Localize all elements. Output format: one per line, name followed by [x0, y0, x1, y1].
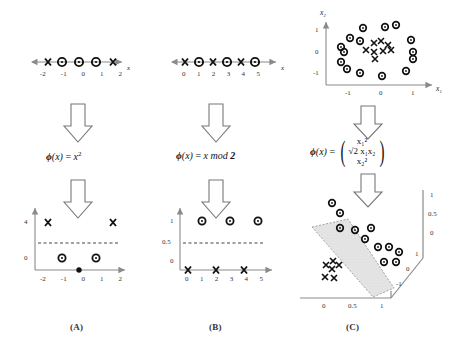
panelA-output-markers — [45, 219, 116, 273]
panelA-formula: ϕ(x) = x2 — [46, 150, 82, 162]
marker-O — [92, 254, 99, 261]
panelC-formula: ϕ(x) = ( x₁² √2 x₁x₂ x₂² ) — [310, 136, 387, 166]
panelC-output-vtick-half: 0.5 — [428, 210, 437, 218]
panelC-input-yaxis-label: x₂ — [320, 8, 326, 17]
marker-X — [331, 275, 337, 281]
tick: 0 — [82, 275, 86, 283]
panelC-input-ytick-0: 0 — [315, 48, 319, 56]
marker-O — [76, 267, 81, 272]
panel-caption-c: (C) — [346, 322, 359, 332]
panelC-input-xtick-neg1: -1 — [345, 89, 351, 97]
tick: 5 — [259, 275, 263, 283]
panelC-input-ytick-neg1: -1 — [313, 69, 319, 77]
vector-row: √2 x₁x₂ — [349, 146, 376, 156]
panelC-output-vtick-1: 1 — [430, 191, 434, 199]
marker-X — [378, 38, 384, 44]
marker-O — [344, 66, 351, 73]
tick: 1 — [100, 70, 104, 78]
down-block-arrow-icon — [202, 104, 230, 142]
panelC-formula-vector: ( x₁² √2 x₁x₂ x₂² ) — [338, 136, 387, 166]
down-block-arrow-icon — [202, 180, 230, 218]
panelB-output-xticks: 0 1 2 3 4 5 — [185, 275, 263, 283]
marker-O — [379, 73, 386, 80]
right-paren-icon: ) — [379, 139, 384, 163]
panelA-input-axis-label: x — [127, 64, 130, 72]
figure-canvas — [0, 0, 459, 350]
marker-O — [198, 217, 205, 224]
marker-X — [363, 47, 369, 53]
marker-O — [396, 249, 403, 256]
tick: 0 — [82, 70, 86, 78]
panelA-output-xticks: -2 -1 0 1 2 — [40, 275, 122, 283]
panelB-output-ytick-0: 0 — [170, 257, 174, 265]
marker-O — [386, 244, 393, 251]
tick: 0 — [185, 275, 189, 283]
panelA-output-ytick-0: 0 — [24, 254, 28, 262]
panelB-input-ticks: 0 1 2 3 4 5 — [182, 70, 260, 78]
panelC-output-dtick-0: 0 — [406, 265, 410, 273]
panel-caption-a: (A) — [70, 322, 83, 332]
panelA-input-plot — [32, 58, 122, 66]
tick: 4 — [245, 275, 249, 283]
tick: -2 — [40, 275, 46, 283]
panelC-input-plot — [326, 22, 432, 85]
tick: 3 — [230, 275, 234, 283]
down-block-arrow-icon — [354, 106, 382, 139]
tick: -1 — [61, 275, 67, 283]
down-block-arrow-icon — [64, 104, 92, 142]
marker-O — [393, 22, 400, 29]
tick: -2 — [40, 70, 46, 78]
marker-X — [329, 266, 335, 272]
marker-O — [360, 25, 367, 32]
marker-O — [381, 259, 388, 266]
tick: 2 — [119, 70, 123, 78]
marker-O — [226, 217, 233, 224]
marker-O — [382, 24, 389, 31]
marker-O — [337, 210, 344, 217]
panelC-output-xtick-half: 0.5 — [348, 302, 357, 310]
marker-O — [410, 49, 417, 56]
down-block-arrow-icon — [354, 174, 382, 207]
marker-O — [357, 38, 364, 45]
vector-row: x₁² — [357, 136, 367, 146]
tick: -1 — [61, 70, 67, 78]
tick: 1 — [197, 70, 201, 78]
tick: 4 — [242, 70, 246, 78]
panelB-output-ytick-1: 1 — [170, 217, 174, 225]
marker-X — [322, 274, 328, 280]
panelB-output-plot — [180, 208, 272, 274]
marker-O — [410, 56, 417, 63]
left-paren-icon: ( — [340, 139, 345, 163]
panelC-output-xtick-0: 0 — [322, 302, 326, 310]
tick: 0 — [182, 70, 186, 78]
tick: 1 — [100, 275, 104, 283]
panelC-input-circles — [338, 22, 417, 80]
marker-O — [375, 244, 382, 251]
marker-O — [368, 225, 375, 232]
tick: 5 — [256, 70, 260, 78]
marker-X — [323, 262, 329, 268]
panelC-output-dtick-neg1: -1 — [396, 280, 402, 288]
panelB-input-axis-label: x — [281, 64, 284, 72]
panelC-output-plot — [300, 190, 423, 298]
panelB-output-ytick-half: 0.5 — [162, 238, 171, 246]
panel-caption-b: (B) — [209, 322, 222, 332]
panelC-output-crosses — [322, 258, 342, 281]
panelC-input-xtick-0: 0 — [379, 89, 383, 97]
down-block-arrow-icon — [64, 180, 92, 218]
panelC-input-ytick-1: 1 — [315, 26, 319, 34]
panelA-output-plot — [35, 208, 125, 273]
panelA-output-ytick-4: 4 — [24, 218, 28, 226]
tick: 2 — [215, 275, 219, 283]
panelC-input-xaxis-label: x₁ — [436, 84, 442, 93]
marker-X — [336, 262, 342, 268]
marker-O — [362, 236, 369, 243]
panelB-input-plot — [172, 58, 276, 66]
tick: 3 — [227, 70, 231, 78]
panelC-output-vtick-0: 0 — [430, 229, 434, 237]
marker-O — [357, 70, 364, 77]
panelC-output-daxis — [391, 258, 423, 298]
panelB-output-markers — [185, 217, 262, 273]
panelB-formula: ϕ(x) = x mod 2 — [176, 150, 235, 161]
marker-O — [347, 35, 354, 42]
